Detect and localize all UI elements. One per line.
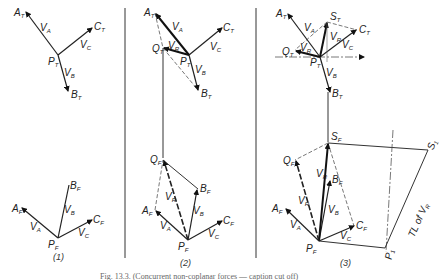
label-vb-top-3: VB [326,67,337,79]
line-p-p1 [319,241,385,248]
line-s-s1 [328,143,428,150]
label-vr-prime-front-3: VR [298,195,310,207]
label-vc-top-3: VC [342,39,354,51]
panel-3-top-view: AT VA ST CT VR VC QT VR PT VB BT [275,8,371,142]
label-b-front-3: BF [332,174,343,186]
label-c-top-3: CT [359,24,371,36]
label-p-front: PF [48,239,59,251]
label-b-top-2: BT [201,88,213,100]
panel-1: AT VA CT VC PT VB BT AF VA BF VB CF VC P… [11,7,106,262]
label-vb-front-2: VB [193,205,204,217]
label-vr-top-3: VR [330,31,342,43]
panel-1-top-view: AT VA CT VC PT VB BT [13,7,106,101]
label-va-top: VA [40,22,51,34]
label-vc-top-2: VC [210,41,222,53]
label-vb-top: VB [64,67,75,79]
label-q-front-3: QF [283,155,295,167]
label-b-top-3: BT [332,88,344,100]
label-vr-front-2: VR [165,191,177,203]
label-va-top-2: VA [172,21,183,33]
label-vb-front-3: VB [328,204,339,216]
panel-2-front-view: QF BF VR VB AF VA CF VC PF [141,154,234,253]
label-vc-front-2: VC [208,228,220,240]
label-true-length: TL of VR [406,200,432,239]
label-b-front-2: BF [200,183,211,195]
label-p-front-2: PF [178,241,189,253]
label-c-top: CT [94,21,106,33]
label-vb-front: VB [64,204,75,216]
label-va-front-2: VA [160,220,171,232]
label-p-top: PT [48,56,60,68]
panel-2-label: (2) [180,258,191,268]
vector-vr-front-3 [319,144,328,241]
label-a-front: AF [11,203,23,215]
label-s-top-3: ST [330,11,342,23]
label-b-front: BF [70,180,81,192]
label-c-front-2: CF [223,215,234,227]
dashed-sc-top [327,22,357,30]
label-va-top-3: VA [304,22,315,34]
dashed-sq-front [295,143,328,160]
label-c-front-3: CF [356,220,367,232]
panel-3-label: (3) [340,258,351,268]
panel-3: AT VA ST CT VR VC QT VR PT VB BT SF [271,8,440,268]
dashed-aq-front [155,160,163,210]
vector-va-front [22,208,58,238]
reference-line-vertical [386,130,393,252]
label-a-front-2: AF [141,205,153,217]
panel-1-label: (1) [53,252,64,262]
label-a-top-2: AT [143,7,156,19]
label-s-front-3: SF [331,131,342,143]
label-p1: P1 [383,249,397,261]
label-a-top-3: AT [275,8,288,20]
label-vc-front-3: VC [340,230,352,242]
label-b-top: BT [71,89,83,101]
label-vb-top-2: VB [195,64,206,76]
label-q-front-2: QF [150,154,162,166]
label-va-front-3: VA [290,219,301,231]
label-vc-top: VC [80,39,92,51]
label-q-top-3: QT [282,46,295,58]
label-c-top-2: CT [223,22,235,34]
figure-caption: Fig. 13.3. (Concurrent non-coplanar forc… [100,272,299,280]
label-c-front: CF [93,214,104,226]
label-q-top-2: QT [152,43,165,55]
label-a-top: AT [13,7,26,19]
label-p-front-3: PF [306,243,317,255]
panel-3-front-view: SF QF VR BF VR VB AF VA CF VC PF P1 S1 T… [271,130,440,261]
panel-1-front-view: AF VA BF VB CF VC PF [11,180,104,251]
panel-2: AT VA CT VC QT VR PT VB BT QF BF VR VB A… [141,7,235,268]
label-a-front-3: AF [271,203,283,215]
panel-2-top-view: AT VA CT VC QT VR PT VB BT [143,7,235,158]
label-vc-front: VC [78,227,90,239]
force-diagram: AT VA CT VC PT VB BT AF VA BF VB CF VC P… [0,0,442,280]
vector-va-top [26,12,58,55]
